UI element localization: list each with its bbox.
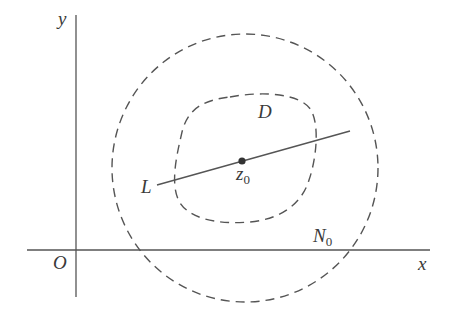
point-z0-subscript: 0	[243, 172, 250, 187]
region-d-boundary	[175, 94, 317, 223]
x-axis-label: x	[418, 254, 426, 273]
point-z0-label: z0	[236, 164, 250, 186]
neighborhood-n0-base: N	[313, 225, 326, 246]
region-d-label: D	[258, 102, 272, 121]
diagram-canvas	[0, 0, 451, 309]
neighborhood-n0-label: N0	[313, 226, 332, 248]
y-axis-label: y	[58, 9, 66, 28]
origin-label: O	[53, 253, 67, 272]
neighborhood-n0-subscript: 0	[326, 234, 333, 249]
line-l-label: L	[141, 177, 152, 196]
complex-plane-diagram: y x O D L z0 N0	[0, 0, 451, 309]
line-l	[157, 131, 350, 185]
